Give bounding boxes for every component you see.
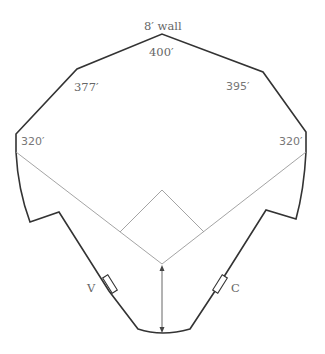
home-dugout-label: C [231,281,240,295]
visitor-dugout-label: V [86,281,96,295]
left-field-distance: 320′ [21,135,45,148]
right-field-distance: 320′ [279,135,303,148]
left-center-distance: 377′ [74,80,99,94]
arrow-head-up-icon [160,265,165,271]
outfield-wall [16,34,306,333]
arrow-head-down-icon [160,327,165,333]
right-center-distance: 395′ [226,80,250,93]
baseball-field-diagram: 8′ wall 400′ 377′ 395′ 320′ 320′ V C [0,0,325,354]
infield-diamond [120,190,204,232]
center-field-distance: 400′ [149,45,174,59]
left-foul-line [16,152,162,264]
wall-height-label: 8′ wall [144,19,182,33]
right-foul-line [162,152,306,264]
home-dugout [213,275,228,293]
